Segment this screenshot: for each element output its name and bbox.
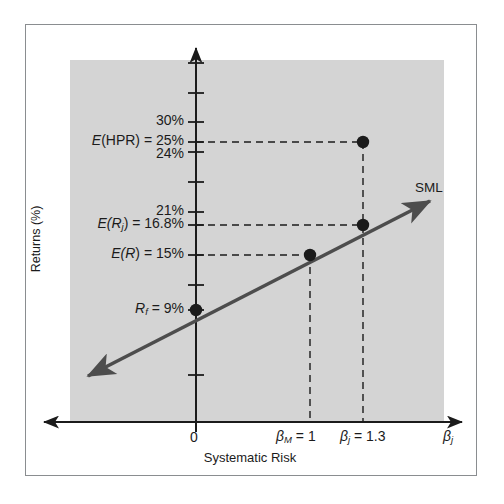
sml-annotation: SML bbox=[415, 181, 443, 195]
beta-m-symbol: β bbox=[276, 428, 284, 444]
erj-open: (R bbox=[107, 215, 122, 231]
erj-e-symbol: E bbox=[97, 215, 106, 231]
x-tick-label-beta-m: βM = 1 bbox=[276, 429, 316, 445]
rf-tail: = 9% bbox=[148, 300, 184, 316]
data-point-erj bbox=[357, 219, 369, 231]
erm-e-symbol: E bbox=[111, 245, 120, 261]
beta-m-tail: = 1 bbox=[292, 428, 316, 444]
y-tick-label-30: 30% bbox=[60, 113, 184, 128]
dashed-guides bbox=[196, 142, 363, 422]
y-tick-label-rf: Rf = 9% bbox=[60, 301, 184, 317]
beta-m-subscript: M bbox=[284, 434, 292, 445]
rf-symbol: R bbox=[135, 300, 145, 316]
x-axis-beta-subscript: j bbox=[451, 434, 453, 445]
data-point-hpr bbox=[357, 136, 369, 148]
x-axis-title: Systematic Risk bbox=[120, 450, 380, 465]
beta-j-symbol: β bbox=[340, 428, 348, 444]
x-axis-variable-label: βj bbox=[443, 429, 453, 445]
y-axis-title: Returns (%) bbox=[29, 179, 43, 299]
y-tick-label-erm: E(R) = 15% bbox=[40, 246, 184, 262]
x-tick-label-origin: 0 bbox=[190, 430, 198, 445]
sml-chart-figure: 30% E(HPR) = 25% 24% 21% E(Rj) = 16.8% E… bbox=[0, 0, 504, 504]
x-tick-label-beta-j: βj = 1.3 bbox=[340, 429, 386, 445]
data-point-rf bbox=[190, 304, 202, 316]
beta-j-tail: = 1.3 bbox=[350, 428, 385, 444]
erm-open: (R bbox=[121, 245, 136, 261]
erj-tail: ) = 16.8% bbox=[124, 215, 184, 231]
y-tick-label-24: 24% bbox=[60, 146, 184, 161]
erm-tail: ) = 15% bbox=[135, 245, 184, 261]
data-point-erm bbox=[304, 249, 316, 261]
x-axis-beta-symbol: β bbox=[443, 428, 451, 444]
y-tick-label-erj: E(Rj) = 16.8% bbox=[40, 216, 184, 232]
